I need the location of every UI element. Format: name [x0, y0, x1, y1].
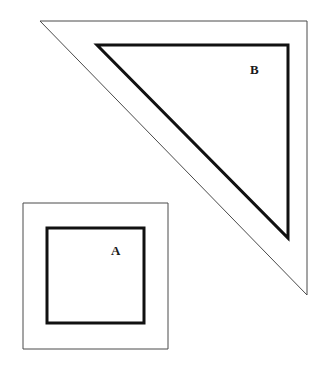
- triangle-b-outer-outline: [40, 21, 307, 295]
- square-a-outer-outline: [23, 203, 168, 349]
- square-a-label: A: [111, 244, 120, 257]
- geometry-figure: [0, 0, 326, 388]
- triangle-b-inner-outline: [97, 45, 288, 238]
- figure-canvas: A B: [0, 0, 326, 388]
- triangle-b-label: B: [250, 63, 259, 76]
- square-a-inner-outline: [47, 228, 144, 323]
